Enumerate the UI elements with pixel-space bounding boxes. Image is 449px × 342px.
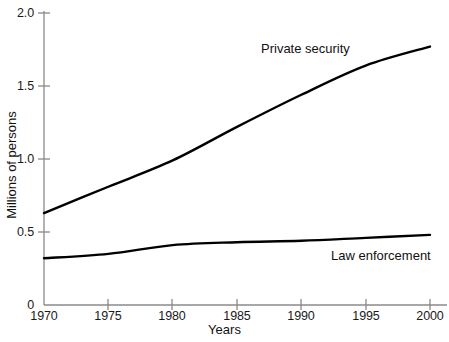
y-tick-label-1-5: 1.5 bbox=[0, 79, 34, 93]
series-line-private-security bbox=[44, 47, 430, 213]
x-tick-label-1995: 1995 bbox=[352, 309, 379, 323]
x-tick-label-1975: 1975 bbox=[94, 309, 121, 323]
x-tick-label-1985: 1985 bbox=[223, 309, 250, 323]
series-label-private-security: Private security bbox=[261, 41, 350, 56]
x-tick-label-1970: 1970 bbox=[30, 309, 57, 323]
data-series-group bbox=[44, 47, 430, 259]
y-tick-label-2-0: 2.0 bbox=[0, 6, 34, 20]
chart-figure: 2.0 1.5 1.0 0.5 0 1970 1975 1980 1985 19… bbox=[0, 0, 449, 342]
chart-plot-area bbox=[0, 0, 449, 342]
x-tick-label-1990: 1990 bbox=[287, 309, 314, 323]
y-axis-title-text: Millions of persons bbox=[4, 111, 19, 219]
x-tick-label-2000: 2000 bbox=[416, 309, 443, 323]
y-axis-title: Millions of persons bbox=[2, 100, 20, 230]
x-axis-title: Years bbox=[0, 322, 449, 337]
x-tick-label-1980: 1980 bbox=[158, 309, 185, 323]
series-label-law-enforcement: Law enforcement bbox=[331, 248, 431, 263]
y-tick-label-0: 0 bbox=[0, 298, 34, 312]
